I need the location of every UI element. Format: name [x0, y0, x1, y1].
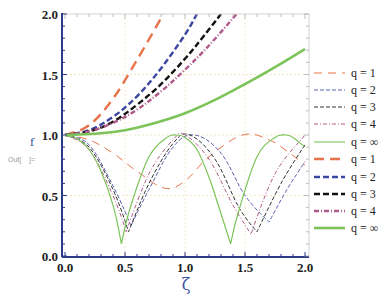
x-tick-label: 0.5	[117, 260, 134, 275]
legend-label: q = ∞	[351, 221, 378, 235]
chart: 0.00.51.01.52.00.00.51.01.52.0 ζ f Out[ …	[0, 0, 385, 305]
legend-item: q = ∞	[314, 221, 378, 235]
x-tick-label: 0.0	[57, 260, 73, 275]
x-tick-label: 1.0	[177, 260, 193, 275]
legend-item: q = 4	[314, 117, 376, 131]
legend-label: q = 3	[351, 187, 376, 201]
legend-label: q = 2	[351, 83, 376, 97]
legend-label: q = 4	[351, 117, 376, 131]
x-axis-title: ζ	[182, 275, 191, 294]
legend-label: q = 1	[351, 152, 376, 166]
curve-group	[65, 14, 305, 244]
legend-item: q = 1	[314, 152, 376, 166]
y-tick-label: 1.0	[42, 128, 58, 143]
y-tick-label: 0.5	[42, 189, 59, 204]
series-line	[65, 135, 305, 226]
legend-item: q = 2	[314, 170, 376, 184]
x-tick-label: 2.0	[297, 260, 313, 275]
legend-item: q = ∞	[314, 135, 378, 149]
y-tick-label: 0.0	[42, 249, 58, 264]
curves	[65, 14, 305, 244]
legend-item: q = 4	[314, 204, 376, 218]
legend-item: q = 1	[314, 66, 376, 80]
legend-item: q = 2	[314, 83, 376, 97]
legend-label: q = 4	[351, 204, 376, 218]
legend-item: q = 3	[314, 100, 376, 114]
legend-label: q = 3	[351, 100, 376, 114]
legend-label: q = ∞	[351, 135, 378, 149]
legend-label: q = 1	[351, 66, 376, 80]
y-tick-label: 1.5	[42, 68, 59, 83]
y-tick-label: 2.0	[42, 7, 58, 22]
out-label: Out[	[8, 156, 21, 164]
legend: q = 1q = 2q = 3q = 4q = ∞q = 1q = 2q = 3…	[314, 66, 378, 235]
out-suffix: ]=	[29, 156, 35, 164]
legend-label: q = 2	[351, 170, 376, 184]
y-axis-title: f	[30, 136, 35, 149]
legend-item: q = 3	[314, 187, 376, 201]
x-tick-label: 1.5	[237, 260, 254, 275]
